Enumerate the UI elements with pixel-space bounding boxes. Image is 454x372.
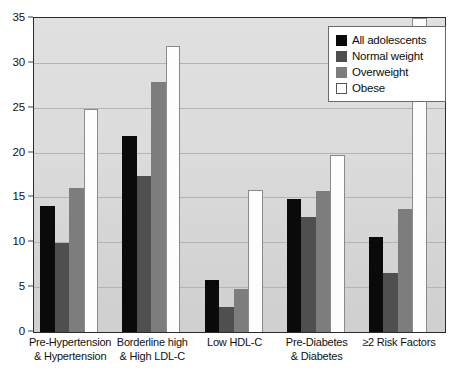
- bar: [383, 273, 398, 332]
- x-axis: Pre-Hypertension& HypertensionBorderline…: [33, 335, 444, 372]
- legend-swatch-icon: [336, 35, 347, 46]
- bar: [166, 46, 181, 332]
- legend-item-label: Obese: [352, 82, 385, 94]
- legend-item-label: All adolescents: [352, 34, 426, 46]
- legend-item: Overweight: [336, 64, 439, 80]
- x-axis-label-line2: & High LDL-C: [117, 349, 188, 363]
- bar: [287, 199, 302, 332]
- bar: [369, 237, 384, 332]
- y-axis-tick-label: 20: [13, 146, 25, 158]
- bar: [137, 176, 152, 332]
- legend-item: All adolescents: [336, 32, 439, 48]
- legend-item-label: Normal weight: [352, 50, 423, 62]
- y-axis-tick-label: 30: [13, 56, 25, 68]
- legend-item: Normal weight: [336, 48, 439, 64]
- bar: [398, 209, 413, 332]
- y-axis: 05101520253035: [0, 0, 33, 372]
- bar: [316, 191, 331, 332]
- bar: [205, 280, 220, 332]
- legend-item: Obese: [336, 80, 439, 96]
- bar: [122, 136, 137, 332]
- x-axis-label-line1: Pre-Diabetes: [286, 336, 348, 348]
- y-axis-tick-label: 5: [19, 280, 25, 292]
- y-axis-tick-label: 35: [13, 11, 25, 23]
- bar: [234, 289, 249, 332]
- bar: [151, 82, 166, 332]
- x-axis-category-label: Pre-Diabetes& Diabetes: [286, 335, 348, 363]
- x-axis-category-label: Borderline high& High LDL-C: [117, 335, 188, 363]
- bar: [55, 243, 70, 332]
- x-axis-label-line1: Low HDL-C: [207, 336, 262, 348]
- legend-swatch-icon: [336, 83, 347, 94]
- bar: [69, 188, 84, 332]
- bar: [219, 307, 234, 332]
- bar: [248, 190, 263, 332]
- chart-legend: All adolescentsNormal weightOverweightOb…: [328, 26, 446, 102]
- x-axis-label-line2: & Hypertension: [29, 349, 111, 363]
- x-axis-category-label: ≥2 Risk Factors: [362, 335, 435, 349]
- x-axis-category-label: Low HDL-C: [207, 335, 262, 349]
- y-axis-tick-label: 15: [13, 190, 25, 202]
- x-axis-label-line1: Borderline high: [117, 336, 188, 348]
- legend-swatch-icon: [336, 67, 347, 78]
- x-axis-category-label: Pre-Hypertension& Hypertension: [29, 335, 111, 363]
- y-axis-tick-label: 0: [19, 325, 25, 337]
- bar: [301, 217, 316, 332]
- bar: [330, 155, 345, 332]
- bar-chart: 05101520253035 All adolescentsNormal wei…: [0, 0, 454, 372]
- x-axis-label-line1: ≥2 Risk Factors: [362, 336, 435, 348]
- x-axis-label-line1: Pre-Hypertension: [29, 336, 111, 348]
- y-axis-tick-label: 10: [13, 235, 25, 247]
- bar: [40, 206, 55, 332]
- legend-swatch-icon: [336, 51, 347, 62]
- x-axis-label-line2: & Diabetes: [286, 349, 348, 363]
- bar: [84, 109, 99, 332]
- legend-item-label: Overweight: [352, 66, 408, 78]
- y-axis-tick-label: 25: [13, 101, 25, 113]
